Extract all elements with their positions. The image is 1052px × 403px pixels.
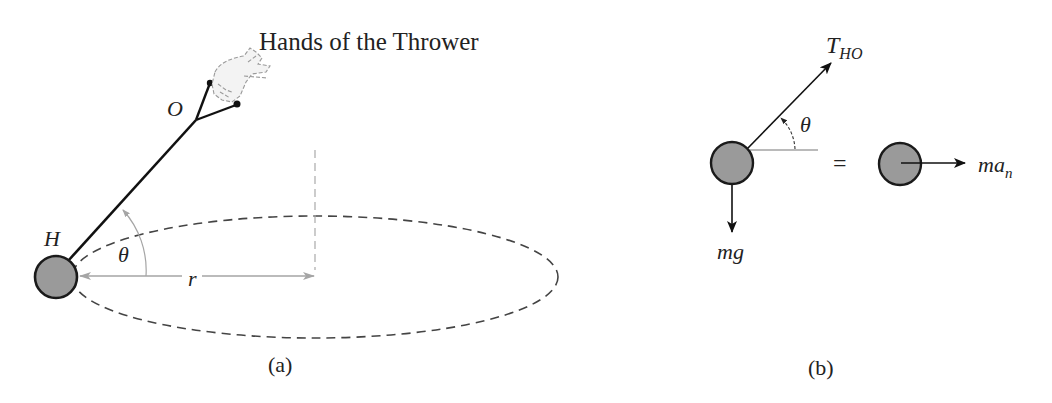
radius-label: r bbox=[188, 266, 197, 291]
label-point-H: H bbox=[43, 226, 61, 251]
equals-sign: = bbox=[833, 150, 847, 176]
free-body-ball bbox=[711, 142, 753, 184]
kinetic-diagram-ball bbox=[879, 143, 921, 185]
thrower-hands-icon bbox=[212, 48, 270, 102]
label-weight-mg: mg bbox=[717, 239, 744, 264]
hammer-throw-diagram: r θ Hands of the Thrower O H (a) bbox=[0, 0, 1052, 403]
label-point-O: O bbox=[167, 96, 183, 121]
label-tension: THO bbox=[826, 32, 863, 62]
panel-b: = THO θ mg man (b) bbox=[711, 32, 1012, 380]
caption-a: (a) bbox=[268, 352, 292, 377]
angle-theta-label: θ bbox=[118, 242, 129, 267]
caption-b: (b) bbox=[808, 355, 834, 380]
tension-force-arrow bbox=[748, 63, 831, 148]
hammer-ball-H bbox=[35, 256, 77, 298]
label-inertial-ma-n: man bbox=[978, 152, 1012, 181]
angle-theta-label-b: θ bbox=[800, 112, 811, 137]
hammer-cable bbox=[68, 120, 196, 261]
angle-arc-theta-b bbox=[781, 118, 795, 149]
panel-a: r θ Hands of the Thrower O H (a) bbox=[35, 28, 558, 377]
handle-knob-right bbox=[234, 101, 241, 108]
label-hands-of-thrower: Hands of the Thrower bbox=[259, 28, 479, 55]
